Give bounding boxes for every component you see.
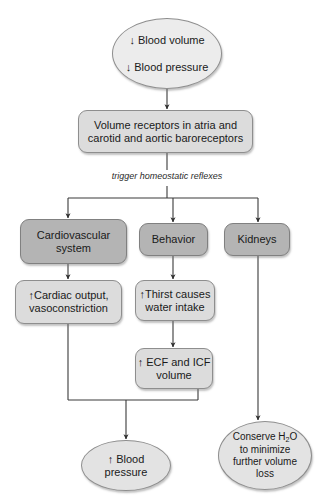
thirst-label: ↑Thirst causes water intake <box>136 288 214 314</box>
kidneys-label: Kidneys <box>225 233 289 246</box>
receptors-label: Volume receptors in atria and carotid an… <box>79 119 252 145</box>
conserve-water-line-1: Conserve H2O <box>219 431 311 444</box>
stimulus-line-1: ↓ Blood volume <box>113 34 221 47</box>
behavior-label: Behavior <box>140 233 207 246</box>
node-cardiac-output: ↑Cardiac output, vasoconstriction <box>15 280 122 324</box>
flowchart-diagram: ↓ Blood volume ↓ Blood pressure Volume r… <box>0 0 323 500</box>
node-blood-pressure-result: ↑ Blood pressure <box>81 440 171 491</box>
conserve-water-line-2: to minimize <box>219 444 311 456</box>
ecf-icf-label: ↑ ECF and ICF volume <box>136 356 212 382</box>
stimulus-line-2: ↓ Blood pressure <box>113 61 221 74</box>
conserve-water-line-4: loss <box>219 468 311 480</box>
blood-pressure-result-label: ↑ Blood pressure <box>82 453 170 479</box>
node-behavior: Behavior <box>139 223 208 256</box>
label-trigger-homeostatic-reflexes: trigger homeostatic reflexes <box>83 171 251 181</box>
node-cardiovascular-system: Cardiovascular system <box>20 219 127 264</box>
cardiovascular-label: Cardiovascular system <box>21 229 126 255</box>
node-kidneys: Kidneys <box>224 223 290 256</box>
node-receptors-box: Volume receptors in atria and carotid an… <box>78 110 253 153</box>
cardiac-output-label: ↑Cardiac output, vasoconstriction <box>16 289 121 315</box>
conserve-water-suffix: O <box>290 431 298 442</box>
node-ecf-icf-volume: ↑ ECF and ICF volume <box>135 348 213 389</box>
node-stimulus-oval: ↓ Blood volume ↓ Blood pressure <box>112 18 222 89</box>
conserve-water-line-3: further volume <box>219 456 311 468</box>
conserve-water-prefix: Conserve H <box>233 431 286 442</box>
node-thirst: ↑Thirst causes water intake <box>135 280 215 321</box>
node-conserve-water: Conserve H2O to minimize further volume … <box>218 421 312 490</box>
